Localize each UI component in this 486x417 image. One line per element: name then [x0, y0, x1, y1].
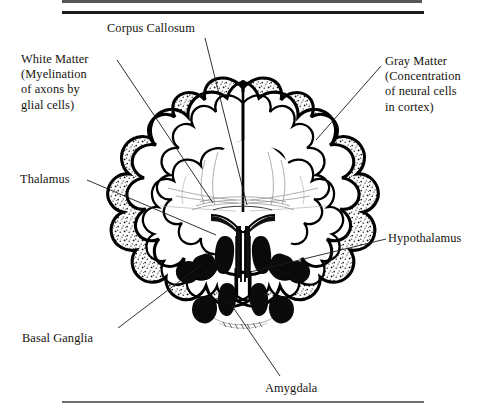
label-hypothalamus: Hypothalamus — [388, 231, 461, 246]
label-amygdala: Amygdala — [265, 381, 317, 396]
hypothalamic-floor — [214, 318, 272, 329]
leader-gray-matter — [316, 66, 381, 140]
label-gray-matter: Gray Matter (Concentration of neural cel… — [385, 54, 461, 115]
label-white-matter: White Matter (Myelination of axons by gl… — [21, 52, 89, 113]
label-basal-ganglia: Basal Ganglia — [22, 331, 93, 346]
figure-page: Corpus Callosum White Matter (Myelinatio… — [0, 0, 486, 417]
label-corpus-callosum: Corpus Callosum — [107, 21, 195, 36]
label-thalamus: Thalamus — [20, 172, 70, 187]
